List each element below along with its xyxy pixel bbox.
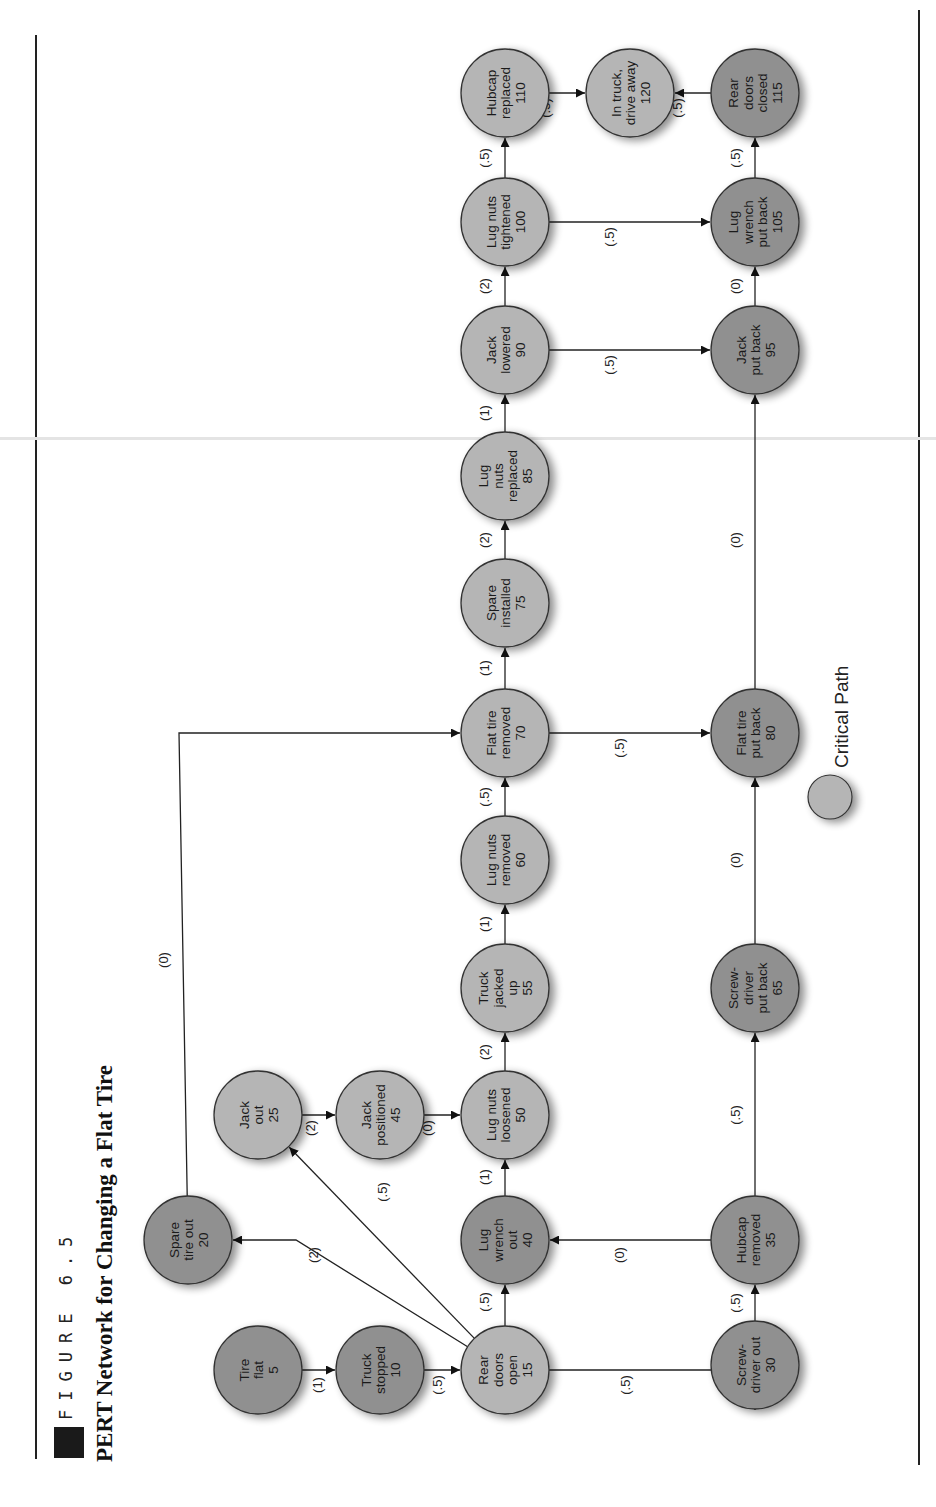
event-node-55: Truckjackedup55 bbox=[461, 944, 549, 1032]
event-node-10: Truckstopped10 bbox=[336, 1326, 424, 1414]
event-node-65: Screw-driverput back65 bbox=[711, 944, 799, 1032]
event-node-30: Screw-driver out30 bbox=[711, 1321, 799, 1409]
event-node-120: In truck,drive away120 bbox=[586, 49, 674, 137]
edge-duration-label: (0) bbox=[612, 1247, 627, 1263]
event-node-110: Hubcapreplaced110 bbox=[461, 49, 549, 137]
edge-duration-label: (.5) bbox=[728, 148, 743, 168]
edge-duration-label: (.5) bbox=[602, 227, 617, 247]
edge-15-to-25 bbox=[289, 1147, 474, 1338]
event-node-20: Sparetire out20 bbox=[144, 1196, 232, 1284]
edges-layer: (1)(.5)(2)(.5)(.5)(.5)(0)(2)(0)(1)(0)(.5… bbox=[156, 93, 755, 1410]
event-node-90: Jacklowered90 bbox=[461, 306, 549, 394]
edge-duration-label: (1) bbox=[477, 916, 492, 932]
event-node-105: Lugwrenchput back105 bbox=[711, 178, 799, 266]
pert-network-diagram: (1)(.5)(2)(.5)(.5)(.5)(0)(2)(0)(1)(0)(.5… bbox=[0, 0, 936, 1507]
edge-duration-label: (0) bbox=[728, 278, 743, 294]
event-node-40: Lugwrenchout40 bbox=[461, 1196, 549, 1284]
event-node-25: Jackout25 bbox=[214, 1071, 302, 1159]
event-node-80: Flat tireput back80 bbox=[711, 689, 799, 777]
edge-duration-label: (2) bbox=[477, 278, 492, 294]
edge-duration-label: (.5) bbox=[602, 355, 617, 375]
nodes-layer: Tireflat5Truckstopped10Reardoorsopen15Sp… bbox=[144, 49, 799, 1414]
event-node-95: Jackput back95 bbox=[711, 306, 799, 394]
edge-duration-label: (.5) bbox=[477, 1292, 492, 1312]
legend-label: Critical Path bbox=[831, 666, 852, 768]
edge-duration-label: (0) bbox=[728, 852, 743, 868]
event-node-15: Reardoorsopen15 bbox=[461, 1326, 549, 1414]
legend: Critical Path bbox=[808, 666, 852, 819]
event-node-115: Reardoorsclosed115 bbox=[711, 49, 799, 137]
edge-duration-label: (2) bbox=[303, 1120, 318, 1136]
event-node-100: Lug nutstightened100 bbox=[461, 178, 549, 266]
edge-duration-label: (0) bbox=[156, 952, 171, 968]
edge-duration-label: (1) bbox=[477, 405, 492, 421]
event-node-35: Hubcapremoved35 bbox=[711, 1196, 799, 1284]
edge-duration-label: (.5) bbox=[612, 738, 627, 758]
edge-duration-label: (1) bbox=[310, 1377, 325, 1393]
edge-duration-label: (.5) bbox=[430, 1375, 445, 1395]
event-node-70: Flat tireremoved70 bbox=[461, 689, 549, 777]
edge-duration-label: (.5) bbox=[618, 1375, 633, 1395]
edge-duration-label: (2) bbox=[477, 532, 492, 548]
edge-duration-label: (0) bbox=[728, 532, 743, 548]
event-node-5: Tireflat5 bbox=[214, 1326, 302, 1414]
edge-duration-label: (2) bbox=[477, 1044, 492, 1060]
event-node-85: Lugnutsreplaced85 bbox=[461, 432, 549, 520]
edge-duration-label: (.5) bbox=[477, 787, 492, 807]
edge-duration-label: (1) bbox=[477, 1169, 492, 1185]
event-node-75: Spareinstalled75 bbox=[461, 559, 549, 647]
legend-critical-swatch bbox=[808, 775, 852, 819]
figure-page: FIGURE 6.5 PERT Network for Changing a F… bbox=[0, 0, 936, 1507]
edge-duration-label: (1) bbox=[477, 660, 492, 676]
edge-duration-label: (2) bbox=[306, 1247, 321, 1263]
event-node-60: Lug nutsremoved60 bbox=[461, 816, 549, 904]
edge-duration-label: (.5) bbox=[375, 1182, 390, 1202]
edge-duration-label: (.5) bbox=[728, 1105, 743, 1125]
edge-duration-label: (.5) bbox=[728, 1293, 743, 1313]
event-node-50: Lug nutsloosened50 bbox=[461, 1071, 549, 1159]
event-node-45: Jackpositioned45 bbox=[336, 1071, 424, 1159]
edge-duration-label: (.5) bbox=[477, 148, 492, 168]
